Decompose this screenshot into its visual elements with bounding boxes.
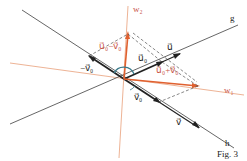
label-v0: v⃗₀ (134, 93, 142, 102)
diagram-canvas (0, 0, 247, 161)
angle-arc-bottom (130, 86, 135, 90)
label-v: v⃗ (176, 118, 181, 127)
figure-caption: Fig. 3 (217, 150, 238, 159)
arrowhead-u0-plus-v0 (192, 83, 200, 88)
label-neg-v0: −v⃗₀ (80, 64, 93, 73)
label-w2: w₂ (133, 5, 143, 14)
label-u: u⃗ (167, 43, 173, 52)
label-w1: w₁ (224, 86, 234, 95)
label-g: g (230, 14, 235, 23)
label-u0-minus-v0: u⃗₀−v⃗₀ (99, 42, 121, 51)
vector-u0-plus-v0 (124, 79, 198, 86)
figure: w₂ g w₁ h Fig. 3 u⃗₀−v⃗₀ −v⃗₀ u⃗₀ u⃗ u⃗₀… (0, 0, 247, 161)
arrowhead-u (173, 53, 181, 59)
label-u0: u⃗₀ (138, 54, 147, 63)
arrowhead-v (192, 121, 200, 128)
label-u0-plus-v0: u⃗₀+v⃗₀ (156, 66, 178, 75)
label-h: h (225, 139, 230, 148)
line-w2 (119, 6, 128, 158)
